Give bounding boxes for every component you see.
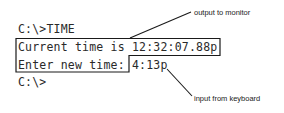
input-from-keyboard-label: input from keyboard xyxy=(194,94,260,103)
output-to-monitor-label: output to monitor xyxy=(194,8,250,17)
output-leader-line xyxy=(130,12,191,38)
input-leader-line xyxy=(167,69,192,96)
output-box xyxy=(16,39,220,73)
